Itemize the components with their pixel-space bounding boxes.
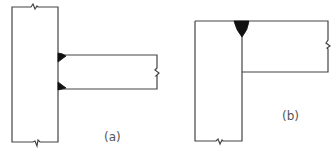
panel-b: (b) [195,21,330,144]
weld-joints-diagram: (a) (b) [0,0,336,167]
horizontal-plate-b [195,21,330,72]
horizontal-plate-a [58,55,159,89]
vertical-plate-b [195,21,242,144]
fillet-weld-top [58,53,66,62]
panel-b-label: (b) [282,109,299,123]
panel-a: (a) [12,4,159,146]
panel-a-label: (a) [104,130,121,144]
groove-weld [234,21,249,37]
vertical-plate-a [12,4,58,146]
